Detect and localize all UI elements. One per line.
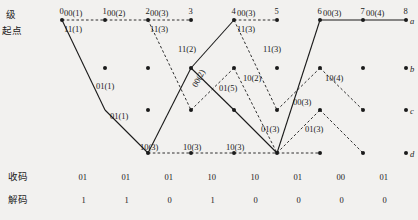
trellis-node <box>146 18 150 22</box>
figure-canvas: 级 起点 012345678 abcd 00(1)00(2)00(3)00(3)… <box>0 0 418 220</box>
received-code-cell: 01 <box>165 173 174 182</box>
decoded-cell: 1 <box>125 196 129 205</box>
trellis-node <box>103 18 107 22</box>
trellis-branch-solid <box>191 20 234 68</box>
trellis-node <box>404 108 408 112</box>
stage-number: 7 <box>361 7 365 16</box>
branch-label: 11(3) <box>263 45 281 54</box>
trellis-node <box>189 66 193 70</box>
branch-label: 01(3) <box>305 125 323 134</box>
received-code-cell: 01 <box>294 173 303 182</box>
branch-label: 00(4) <box>366 9 384 18</box>
stage-number: 3 <box>189 7 193 16</box>
decoded-cell: 1 <box>211 196 215 205</box>
trellis-node <box>275 66 279 70</box>
decoded-cell: 1 <box>82 196 86 205</box>
decoded-cell: 0 <box>383 196 387 205</box>
stage-number: 5 <box>275 7 279 16</box>
trellis-node <box>103 66 107 70</box>
received-code-cell: 01 <box>122 173 131 182</box>
branch-label: 00(3) <box>150 9 168 18</box>
branch-label: 00(3) <box>323 9 341 18</box>
trellis-node <box>404 66 408 70</box>
branch-label: 00(1) <box>64 9 82 18</box>
trellis-node <box>404 151 408 155</box>
state-label-c: c <box>410 107 414 116</box>
branch-label: 01(3) <box>261 125 279 134</box>
branch-label: 00(3) <box>237 9 255 18</box>
trellis-branch-dashed <box>320 110 363 153</box>
trellis-node <box>275 108 279 112</box>
trellis-node <box>189 108 193 112</box>
trellis-graph <box>0 0 418 220</box>
decoded-cell: 0 <box>340 196 344 205</box>
trellis-node <box>232 66 236 70</box>
state-label-b: b <box>410 65 414 74</box>
received-code-cell: 01 <box>380 173 389 182</box>
branch-label: 01(1) <box>110 112 128 121</box>
decoded-cell: 0 <box>254 196 258 205</box>
branch-label: 10(4) <box>325 74 343 83</box>
branch-label: 01(5) <box>219 84 237 93</box>
branch-label: 11(2) <box>178 45 196 54</box>
received-code-cell: 10 <box>251 173 260 182</box>
trellis-node <box>404 18 408 22</box>
row-label-stage: 级 <box>6 10 16 20</box>
trellis-node <box>146 108 150 112</box>
stage-number: 6 <box>318 7 322 16</box>
trellis-node <box>146 66 150 70</box>
trellis-node <box>318 18 322 22</box>
state-label-a: a <box>410 17 414 26</box>
branch-label: 11(1) <box>64 25 82 34</box>
row-label-origin: 起点 <box>2 26 22 36</box>
decoded-row-label: 解码 <box>8 195 28 205</box>
branch-label: 10(3) <box>226 143 244 152</box>
trellis-node <box>361 108 365 112</box>
branch-label: 01(1) <box>96 82 114 91</box>
trellis-node <box>232 108 236 112</box>
received-code-cell: 01 <box>79 173 88 182</box>
trellis-branch-solid <box>148 68 191 153</box>
trellis-node <box>189 18 193 22</box>
decoded-cell: 0 <box>297 196 301 205</box>
trellis-node <box>361 66 365 70</box>
trellis-node <box>275 151 279 155</box>
branch-label: 10(3) <box>140 143 158 152</box>
received-code-cell: 10 <box>208 173 217 182</box>
branch-label: 10(2) <box>243 74 261 83</box>
decoded-cell: 0 <box>168 196 172 205</box>
trellis-node <box>318 66 322 70</box>
state-label-d: d <box>410 150 414 159</box>
trellis-node <box>318 151 322 155</box>
received-code-row-label: 收码 <box>8 172 28 182</box>
stage-number: 8 <box>404 7 408 16</box>
branch-label: 00(3) <box>293 98 311 107</box>
stage-number: 4 <box>232 7 236 16</box>
trellis-node <box>361 18 365 22</box>
branch-label: 00(2) <box>107 9 125 18</box>
trellis-node <box>361 151 365 155</box>
branch-label: 11(3) <box>237 25 255 34</box>
received-code-cell: 00 <box>337 173 346 182</box>
branch-label: 11(3) <box>150 25 168 34</box>
trellis-node <box>275 18 279 22</box>
trellis-node <box>318 108 322 112</box>
trellis-node <box>232 18 236 22</box>
branch-label: 10(3) <box>183 143 201 152</box>
trellis-node <box>60 18 64 22</box>
